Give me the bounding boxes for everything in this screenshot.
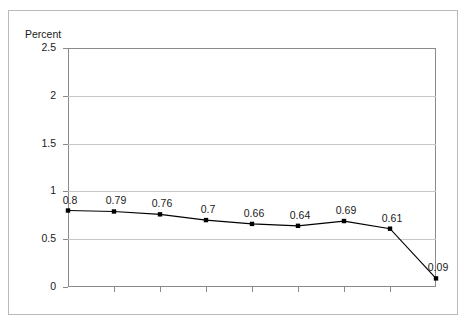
data-point-label: 0.8: [63, 194, 78, 206]
data-point-marker: [66, 208, 70, 212]
y-tick-label: 2.5: [12, 41, 56, 53]
data-point-label: 0.79: [106, 194, 126, 206]
y-axis-title: Percent: [25, 28, 61, 40]
data-point-label: 0.09: [428, 261, 448, 273]
data-point-label: 0.66: [244, 207, 264, 219]
data-point-marker: [434, 276, 438, 280]
data-point-marker: [112, 209, 116, 213]
x-tick-mark: [390, 287, 391, 292]
y-tick-mark: [63, 287, 68, 288]
chart-figure: Percent 00.511.522.5 1979198019811982198…: [0, 0, 468, 325]
data-series-line: [68, 48, 436, 287]
x-tick-mark: [344, 287, 345, 292]
x-tick-mark: [298, 287, 299, 292]
data-point-label: 0.61: [382, 212, 402, 224]
data-point-label: 0.64: [290, 209, 310, 221]
x-tick-mark: [252, 287, 253, 292]
data-point-label: 0.7: [201, 203, 216, 215]
data-point-marker: [388, 226, 392, 230]
y-tick-label: 2: [12, 89, 56, 101]
y-tick-label: 1.5: [12, 137, 56, 149]
data-point-marker: [204, 218, 208, 222]
x-tick-mark: [160, 287, 161, 292]
data-point-marker: [158, 212, 162, 216]
y-tick-label: 0.5: [12, 232, 56, 244]
data-point-marker: [250, 222, 254, 226]
x-tick-mark: [206, 287, 207, 292]
plot-area: 00.511.522.5 197919801981198219831984198…: [68, 48, 436, 287]
x-tick-mark: [114, 287, 115, 292]
y-tick-label: 1: [12, 184, 56, 196]
data-point-label: 0.76: [152, 197, 172, 209]
data-point-marker: [342, 219, 346, 223]
data-point-label: 0.69: [336, 204, 356, 216]
y-tick-label: 0: [12, 280, 56, 292]
data-point-marker: [296, 224, 300, 228]
